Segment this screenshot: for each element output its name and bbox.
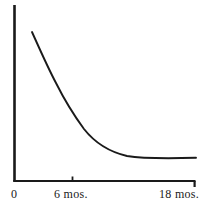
decay-curve-chart <box>0 0 216 214</box>
x-tick-label-18-months: 18 mos. <box>159 188 199 200</box>
x-tick-label-0: 0 <box>11 188 17 200</box>
x-tick-label-6-months: 6 mos. <box>54 188 88 200</box>
chart-container: 0 6 mos. 18 mos. <box>0 0 216 214</box>
